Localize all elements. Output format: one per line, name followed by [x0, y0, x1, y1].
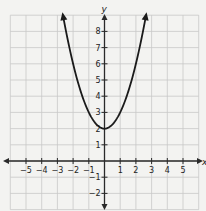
curve-left-arrow-icon: [60, 12, 67, 20]
y-tick-labels: −2−112345678: [89, 27, 101, 198]
x-tick-label: −5: [20, 166, 32, 175]
y-tick-label: 3: [95, 108, 100, 117]
x-tick-label: −2: [67, 166, 79, 175]
curve-right-arrow-icon: [142, 12, 149, 20]
y-tick-label: 8: [95, 27, 100, 36]
x-tick-label: −4: [36, 166, 48, 175]
x-axis-left-arrow-icon: [3, 158, 9, 164]
y-axis-down-arrow-icon: [102, 204, 108, 210]
y-tick-label: 7: [95, 44, 100, 53]
x-tick-label: 3: [149, 166, 154, 175]
x-tick-label: −3: [52, 166, 64, 175]
x-tick-label: 5: [180, 166, 185, 175]
x-tick-label: 4: [165, 166, 170, 175]
x-tick-label: 2: [133, 166, 138, 175]
y-tick-label: 5: [95, 76, 100, 85]
y-tick-label: −2: [89, 189, 101, 198]
x-tick-label: 1: [118, 166, 123, 175]
y-tick-label: −1: [89, 173, 101, 182]
y-tick-label: 1: [95, 141, 100, 150]
coordinate-plane: −5−4−3−2−112345 −2−112345678 x y: [0, 0, 206, 211]
y-tick-label: 6: [95, 60, 100, 69]
y-axis-label: y: [101, 4, 108, 14]
x-tick-labels: −5−4−3−2−112345: [20, 166, 185, 175]
x-axis-label: x: [201, 157, 206, 167]
y-tick-label: 4: [95, 92, 100, 101]
